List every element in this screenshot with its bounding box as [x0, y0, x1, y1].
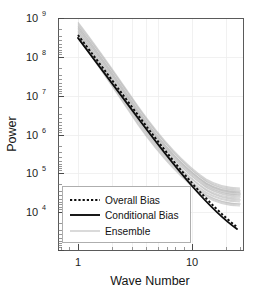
- y-tick-exponent: 9: [42, 9, 46, 18]
- cropped-caption-text: [0, 0, 255, 2]
- y-axis-title: Power: [5, 116, 19, 151]
- x-axis-tick-labels: 1 10: [75, 256, 198, 268]
- legend-label-overall-bias: Overall Bias: [105, 195, 160, 206]
- x-axis-title: Wave Number: [110, 274, 189, 288]
- chart-svg: 10 9 10 8 10 7 10 6 10 5 10 4: [0, 0, 255, 302]
- legend: Overall Bias Conditional Bias Ensemble: [62, 186, 190, 242]
- ensemble-series: [78, 22, 241, 206]
- y-axis-tick-labels: 10 9 10 8 10 7 10 6 10 5 10 4: [26, 9, 46, 218]
- y-tick-label: 10: [26, 51, 38, 63]
- y-tick-exponent: 5: [42, 164, 46, 173]
- y-tick-label: 10: [26, 12, 38, 24]
- y-tick-label: 10: [26, 167, 38, 179]
- y-tick-label: 10: [26, 90, 38, 102]
- y-tick-exponent: 4: [42, 203, 46, 212]
- x-axis-ticks: [61, 244, 240, 250]
- legend-label-ensemble: Ensemble: [105, 226, 151, 237]
- power-spectrum-figure: 10 9 10 8 10 7 10 6 10 5 10 4: [0, 0, 255, 302]
- y-tick-exponent: 7: [42, 87, 46, 96]
- x-tick-label: 1: [75, 256, 81, 268]
- y-tick-exponent: 6: [42, 126, 46, 135]
- x-tick-label: 10: [186, 256, 198, 268]
- y-tick-exponent: 8: [42, 48, 46, 57]
- y-tick-label: 10: [26, 206, 38, 218]
- y-tick-label: 10: [26, 129, 38, 141]
- legend-label-conditional-bias: Conditional Bias: [105, 210, 179, 221]
